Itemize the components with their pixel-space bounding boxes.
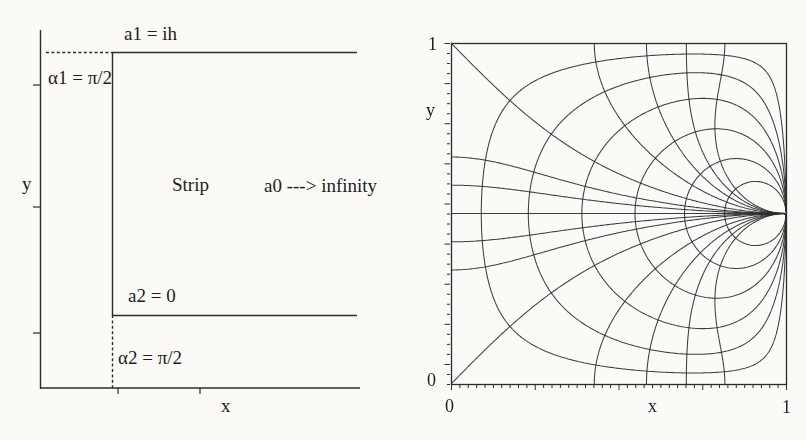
label-strip-region: Strip — [172, 175, 209, 194]
strip-diagram-lines — [0, 0, 430, 440]
label-vertex-a1: a1 = ih — [124, 24, 177, 43]
label-angle-alpha2: α2 = π/2 — [118, 348, 182, 367]
label-angle-alpha1: α1 = π/2 — [48, 68, 112, 87]
label-x-axis-left: x — [221, 396, 231, 415]
label-y-axis-left: y — [22, 174, 32, 193]
conformal-grid-canvas — [426, 20, 806, 420]
label-vertex-a0-infinity: a0 ---> infinity — [264, 176, 377, 195]
label-vertex-a2: a2 = 0 — [128, 286, 176, 305]
y-tick-label-0: 0 — [427, 371, 436, 389]
x-tick-label-1: 1 — [782, 398, 791, 416]
y-tick-label-1: 1 — [428, 35, 437, 53]
scanned-figure-page: a1 = ih α1 = π/2 y Strip a0 ---> infinit… — [0, 0, 806, 440]
label-y-axis-right: y — [426, 101, 435, 119]
x-tick-label-0: 0 — [445, 397, 454, 415]
label-x-axis-right: x — [648, 397, 657, 415]
